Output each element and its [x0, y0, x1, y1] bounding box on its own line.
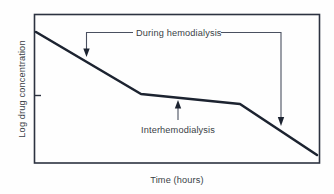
right-annotation-connector [221, 33, 281, 119]
concentration-curve [36, 32, 317, 155]
interhemodialysis-label: Interhemodialysis [141, 125, 215, 135]
y-axis-title: Log drug concentration [17, 40, 27, 137]
drug-concentration-chart: During hemodialysis Interhemodialysis Lo… [0, 0, 334, 194]
left-annotation-arrowhead [83, 49, 89, 58]
chart-screenshot: During hemodialysis Interhemodialysis Lo… [0, 0, 334, 194]
right-annotation-arrowhead [278, 117, 284, 126]
left-annotation-connector [87, 33, 134, 51]
during-hemodialysis-label: During hemodialysis [136, 28, 222, 38]
interhemodialysis-arrowhead [175, 100, 181, 109]
x-axis-title: Time (hours) [150, 175, 204, 185]
